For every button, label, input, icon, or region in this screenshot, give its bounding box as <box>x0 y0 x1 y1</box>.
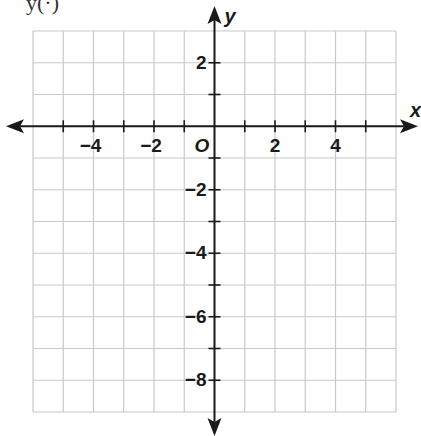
x-tick-label: 4 <box>330 136 341 155</box>
x-tick-label: −4 <box>80 136 102 155</box>
y-tick-label: −4 <box>185 243 207 262</box>
x-tick-label: −2 <box>140 136 162 155</box>
y-tick-label: −8 <box>185 370 207 389</box>
y-tick-label: −2 <box>185 180 207 199</box>
x-tick-label: 2 <box>270 136 281 155</box>
y-tick-label: −6 <box>185 307 207 326</box>
y-tick-label: 2 <box>196 53 207 72</box>
origin-label: O <box>195 136 210 155</box>
x-axis-label: x <box>410 100 421 120</box>
y-axis-label: y <box>225 6 236 26</box>
